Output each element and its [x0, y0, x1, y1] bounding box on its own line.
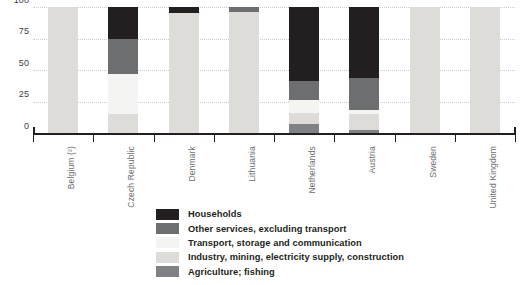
y-tick-label: 25: [3, 90, 29, 99]
bar-stack: [108, 7, 138, 133]
x-axis-label: Belgium (²): [67, 146, 76, 189]
bar-segment[interactable]: [289, 81, 319, 100]
bar-segment[interactable]: [108, 114, 138, 133]
x-axis-label: United Kingdom: [489, 146, 498, 209]
bars-layer: [33, 7, 515, 133]
bar-stack: [470, 7, 500, 133]
bar-column[interactable]: [289, 7, 319, 133]
legend-swatch: [156, 266, 179, 277]
bar-segment[interactable]: [289, 100, 319, 113]
x-axis-label: Lithuania: [248, 146, 257, 182]
plot-area: [33, 7, 515, 133]
x-axis-tick: [154, 135, 155, 142]
bar-segment[interactable]: [349, 78, 379, 111]
bar-stack: [48, 7, 78, 133]
y-tick-label: 50: [3, 59, 29, 68]
bar-stack: [410, 7, 440, 133]
legend-item[interactable]: Industry, mining, electricity supply, co…: [156, 250, 486, 264]
x-axis-label: Austria: [368, 146, 377, 174]
legend-label: Households: [188, 209, 242, 219]
x-axis-label: Sweden: [429, 146, 438, 178]
legend-label: Industry, mining, electricity supply, co…: [188, 252, 404, 262]
legend-swatch: [156, 223, 179, 234]
bar-segment[interactable]: [169, 13, 199, 133]
bar-segment[interactable]: [289, 124, 319, 133]
y-tick-label: 0: [3, 122, 29, 131]
bar-segment[interactable]: [410, 7, 440, 133]
bar-column[interactable]: [229, 7, 259, 133]
x-axis-tick: [334, 135, 335, 142]
x-axis-label: Denmark: [188, 146, 197, 182]
bar-column[interactable]: [349, 7, 379, 133]
bar-segment[interactable]: [349, 114, 379, 130]
y-tick-label: 75: [3, 27, 29, 36]
legend-label: Other services, excluding transport: [188, 224, 346, 234]
x-axis-tick: [93, 135, 94, 142]
bar-segment[interactable]: [108, 39, 138, 74]
bar-column[interactable]: [108, 7, 138, 133]
bar-segment[interactable]: [108, 7, 138, 39]
legend-item[interactable]: Transport, storage and communication: [156, 236, 486, 250]
bar-column[interactable]: [470, 7, 500, 133]
legend-item[interactable]: Agriculture; fishing: [156, 265, 486, 279]
bar-column[interactable]: [48, 7, 78, 133]
x-axis-tick: [274, 135, 275, 142]
legend-swatch: [156, 252, 179, 263]
bar-column[interactable]: [169, 7, 199, 133]
bar-segment[interactable]: [470, 7, 500, 133]
bar-segment[interactable]: [349, 7, 379, 78]
bar-segment[interactable]: [108, 74, 138, 114]
stacked-bar-chart: 0255075100 Belgium (²)Czech RepublicDenm…: [0, 0, 523, 285]
x-axis-tick: [395, 135, 396, 142]
x-axis-tick: [33, 135, 34, 142]
legend-swatch: [156, 209, 179, 220]
chart-legend: HouseholdsOther services, excluding tran…: [156, 207, 486, 279]
bar-segment[interactable]: [229, 12, 259, 133]
x-axis-tick: [455, 135, 456, 142]
bar-stack: [289, 7, 319, 133]
x-axis-tick: [214, 135, 215, 142]
x-axis-label: Netherlands: [308, 146, 317, 193]
x-axis-tick: [515, 135, 516, 142]
x-axis-left-cap: [33, 127, 35, 135]
y-axis: 0255075100: [0, 0, 29, 126]
legend-item[interactable]: Households: [156, 207, 486, 221]
bar-segment[interactable]: [289, 113, 319, 124]
x-axis-right-cap: [514, 127, 516, 135]
bar-stack: [229, 7, 259, 133]
bar-segment[interactable]: [48, 7, 78, 133]
legend-label: Agriculture; fishing: [188, 267, 275, 277]
bar-stack: [349, 7, 379, 133]
bar-column[interactable]: [410, 7, 440, 133]
legend-swatch: [156, 237, 179, 248]
bar-segment[interactable]: [289, 7, 319, 81]
legend-item[interactable]: Other services, excluding transport: [156, 221, 486, 235]
y-tick-label: 100: [3, 0, 29, 5]
legend-label: Transport, storage and communication: [188, 238, 362, 248]
x-axis-label: Czech Republic: [127, 146, 136, 208]
bar-stack: [169, 7, 199, 133]
